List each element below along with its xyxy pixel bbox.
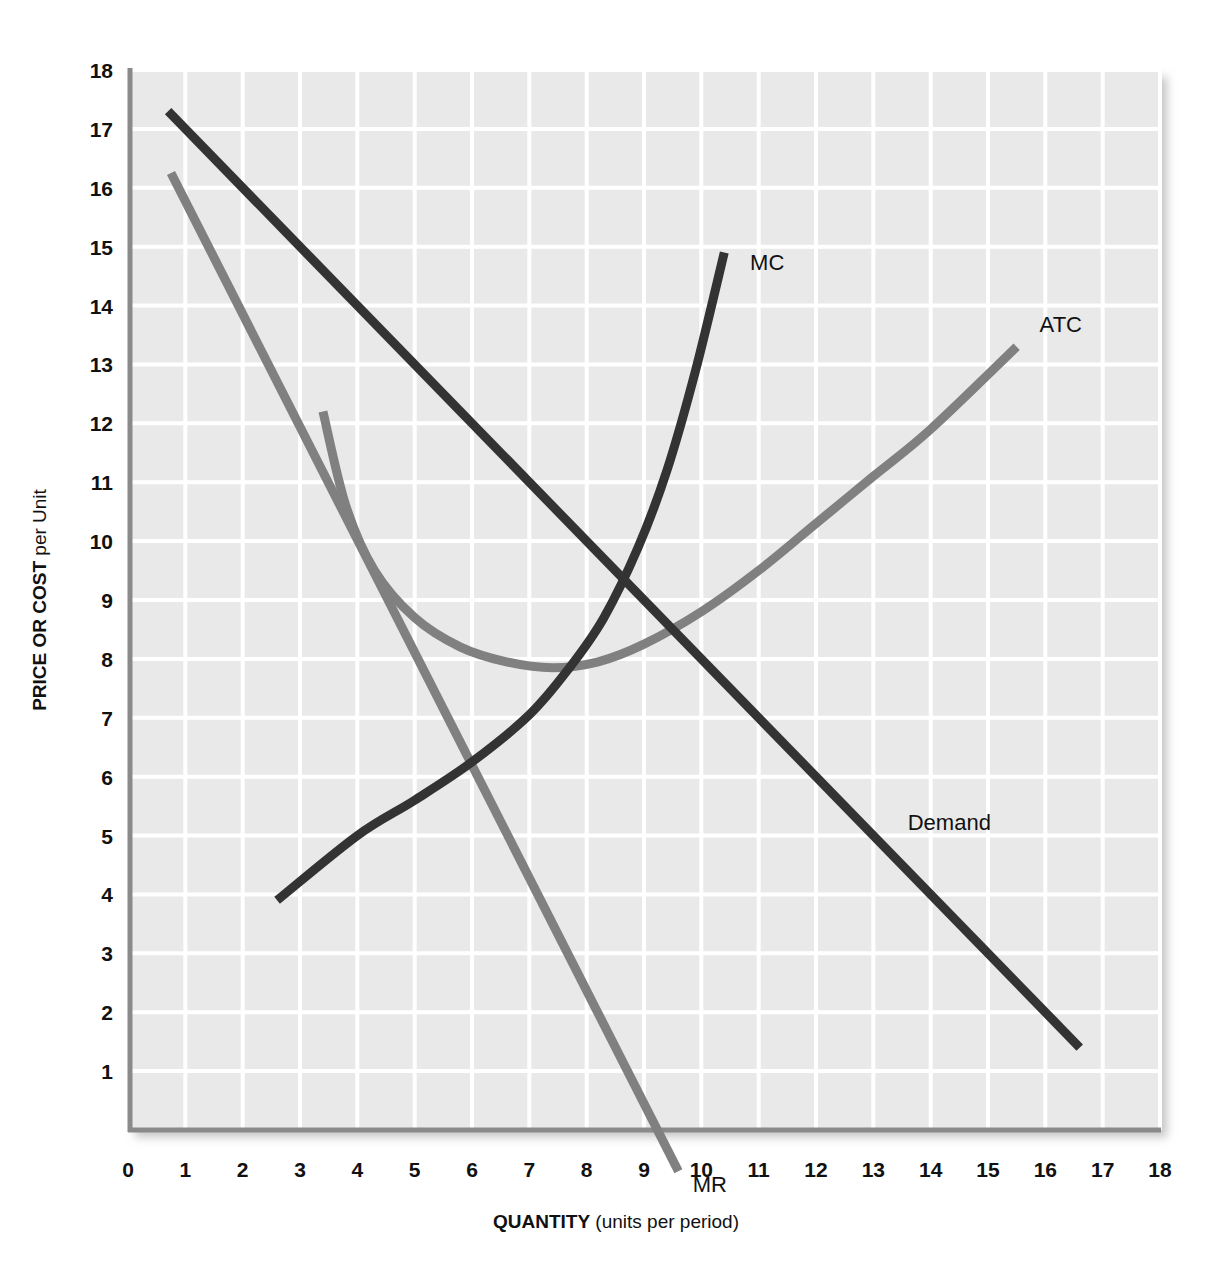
x-tick-7: 7 [523,1158,535,1181]
x-tick-18: 18 [1148,1158,1172,1181]
x-tick-0: 0 [122,1158,134,1181]
x-axis-title-bold: QUANTITY [493,1211,590,1232]
x-tick-8: 8 [581,1158,593,1181]
y-tick-13: 13 [90,353,113,376]
x-tick-12: 12 [804,1158,827,1181]
x-axis-tick-labels: 0123456789101112131415161718 [122,1158,1172,1181]
y-tick-11: 11 [91,471,114,494]
curve-label-atc: ATC [1040,312,1082,337]
y-axis-title-bold: PRICE OR COST [29,561,50,711]
x-tick-4: 4 [351,1158,363,1181]
y-tick-9: 9 [101,589,113,612]
x-tick-3: 3 [294,1158,306,1181]
y-tick-14: 14 [90,295,114,318]
x-tick-5: 5 [409,1158,421,1181]
y-tick-7: 7 [101,707,113,730]
svg-text:QUANTITY (units per period): QUANTITY (units per period) [493,1211,739,1232]
y-tick-3: 3 [101,942,113,965]
x-tick-1: 1 [179,1158,191,1181]
economics-monopoly-chart: 0123456789101112131415161718 12345678910… [0,0,1232,1280]
curve-label-demand: Demand [908,810,991,835]
y-tick-12: 12 [90,412,113,435]
curve-label-mc: MC [750,250,784,275]
curve-label-mr: MR [693,1172,727,1197]
y-tick-17: 17 [90,118,113,141]
y-tick-15: 15 [90,236,114,259]
x-tick-15: 15 [976,1158,1000,1181]
y-tick-10: 10 [90,530,113,553]
x-tick-14: 14 [919,1158,943,1181]
x-axis-title-rest: (units per period) [590,1211,739,1232]
y-tick-18: 18 [90,59,114,82]
y-tick-1: 1 [101,1060,113,1083]
chart-canvas: 0123456789101112131415161718 12345678910… [0,0,1232,1280]
svg-text:PRICE OR COST per Unit: PRICE OR COST per Unit [29,488,50,710]
y-tick-6: 6 [101,766,113,789]
x-tick-11: 11 [748,1158,771,1181]
y-tick-5: 5 [101,825,113,848]
y-axis-title-rest: per Unit [29,488,50,561]
y-axis-title: PRICE OR COST per Unit [29,488,50,710]
x-axis-title: QUANTITY (units per period) [493,1211,739,1232]
y-tick-2: 2 [101,1001,113,1024]
x-tick-9: 9 [638,1158,650,1181]
x-tick-17: 17 [1091,1158,1114,1181]
y-tick-4: 4 [101,883,113,906]
x-tick-6: 6 [466,1158,478,1181]
y-tick-16: 16 [90,177,113,200]
y-axis-tick-labels: 123456789101112131415161718 [90,59,114,1083]
x-tick-2: 2 [237,1158,249,1181]
x-tick-13: 13 [862,1158,885,1181]
x-tick-16: 16 [1034,1158,1057,1181]
y-tick-8: 8 [101,648,113,671]
